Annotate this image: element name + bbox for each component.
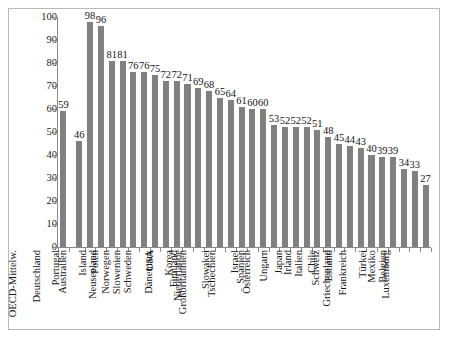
bar[interactable] xyxy=(152,75,158,248)
bar[interactable] xyxy=(249,109,255,247)
bar[interactable] xyxy=(423,185,429,247)
bar[interactable] xyxy=(260,109,266,247)
bar-value-label: 44 xyxy=(345,134,356,145)
bar[interactable] xyxy=(282,127,288,247)
bar-slot[interactable]: 34 xyxy=(399,17,410,247)
bar[interactable] xyxy=(206,91,212,247)
bar[interactable] xyxy=(239,107,245,247)
bar-slot[interactable]: 69 xyxy=(193,17,204,247)
bar[interactable] xyxy=(195,88,201,247)
bar[interactable] xyxy=(293,127,299,247)
bar[interactable] xyxy=(358,148,364,247)
x-axis-category-label-text: Dänemark xyxy=(144,250,155,294)
bar-slot[interactable]: 72 xyxy=(171,17,182,247)
bar[interactable] xyxy=(379,157,385,247)
bar-value-label: 48 xyxy=(323,125,334,136)
bar-slot[interactable]: 43 xyxy=(355,17,366,247)
bar-value-label: 52 xyxy=(301,115,312,126)
plot-region: 1009080706050403020100 59469896818176767… xyxy=(31,17,431,247)
bar-slot[interactable]: 48 xyxy=(323,17,334,247)
bar-slot[interactable]: 81 xyxy=(117,17,128,247)
x-axis-category-label-text: Frankreich xyxy=(338,250,349,295)
bar-slot[interactable]: 76 xyxy=(128,17,139,247)
bar[interactable] xyxy=(368,155,374,247)
bar-slot[interactable]: 46 xyxy=(74,17,85,247)
bar-slot[interactable]: 33 xyxy=(409,17,420,247)
bar[interactable] xyxy=(271,125,277,247)
bar-slot[interactable]: 39 xyxy=(388,17,399,247)
bars-area: 5946989681817676757272716968656461606053… xyxy=(58,17,431,247)
bar-value-label: 43 xyxy=(355,136,366,147)
bar-value-label: 71 xyxy=(182,72,193,83)
bar-value-label: 81 xyxy=(106,49,117,60)
bar-slot[interactable]: 60 xyxy=(247,17,258,247)
bar[interactable] xyxy=(228,100,234,247)
bar-slot[interactable]: 53 xyxy=(269,17,280,247)
bar[interactable] xyxy=(130,72,136,247)
bar[interactable] xyxy=(303,127,309,247)
bar[interactable] xyxy=(314,130,320,247)
bar[interactable] xyxy=(336,144,342,248)
bar[interactable] xyxy=(184,84,190,247)
bar-value-label: 98 xyxy=(85,10,96,21)
bar[interactable] xyxy=(347,146,353,247)
bar[interactable] xyxy=(98,26,104,247)
bar-slot[interactable]: 51 xyxy=(312,17,323,247)
bar-slot[interactable]: 76 xyxy=(139,17,150,247)
bar[interactable] xyxy=(174,81,180,247)
bar[interactable] xyxy=(412,171,418,247)
bar[interactable] xyxy=(390,157,396,247)
x-axis-category-label-text: Italien xyxy=(293,250,304,277)
bar-slot[interactable]: 45 xyxy=(334,17,345,247)
bar-slot[interactable]: 52 xyxy=(290,17,301,247)
bar[interactable] xyxy=(119,61,125,247)
bar-slot[interactable]: 40 xyxy=(366,17,377,247)
bar-slot[interactable]: 98 xyxy=(85,17,96,247)
bar[interactable] xyxy=(401,169,407,247)
bar-slot[interactable]: 60 xyxy=(258,17,269,247)
bar-value-label: 51 xyxy=(312,118,323,129)
bar[interactable] xyxy=(109,61,115,247)
bar[interactable] xyxy=(163,81,169,247)
x-axis-category-label-text: Australien xyxy=(57,250,68,294)
x-axis-tick-mark xyxy=(420,248,421,252)
bar-value-label: 76 xyxy=(128,60,139,71)
bar-value-label: 68 xyxy=(204,79,215,90)
chart-figure: 1009080706050403020100 59469896818176767… xyxy=(8,8,440,330)
bar[interactable] xyxy=(325,137,331,247)
bar-slot[interactable]: 27 xyxy=(420,17,431,247)
x-axis-category-label-text: Norwegen xyxy=(100,250,111,294)
bar[interactable] xyxy=(217,98,223,248)
bar-value-label: 39 xyxy=(388,145,399,156)
bar-slot[interactable]: 75 xyxy=(150,17,161,247)
bar-value-label: 52 xyxy=(280,115,291,126)
bar-value-label: 64 xyxy=(226,88,237,99)
bar-value-label: 34 xyxy=(399,157,410,168)
bar-slot[interactable]: 65 xyxy=(215,17,226,247)
bar-slot[interactable]: 72 xyxy=(160,17,171,247)
bar-value-label: 27 xyxy=(420,173,431,184)
bar-value-label: 39 xyxy=(377,145,388,156)
x-axis-category-label-text: Schweden xyxy=(122,250,133,293)
bar-slot[interactable]: 39 xyxy=(377,17,388,247)
bar[interactable] xyxy=(141,72,147,247)
bar-slot[interactable]: 61 xyxy=(236,17,247,247)
bar-slot[interactable]: 96 xyxy=(95,17,106,247)
bar-value-label: 69 xyxy=(193,76,204,87)
bar-slot[interactable]: 44 xyxy=(344,17,355,247)
bar-slot[interactable]: 68 xyxy=(204,17,215,247)
bar-slot[interactable]: 52 xyxy=(279,17,290,247)
bar-value-label: 76 xyxy=(139,60,150,71)
bar-slot[interactable]: 59 xyxy=(58,17,69,247)
bar[interactable] xyxy=(76,141,82,247)
bar-slot[interactable]: 81 xyxy=(106,17,117,247)
bar-slot[interactable]: 52 xyxy=(301,17,312,247)
bar[interactable] xyxy=(60,111,66,247)
bar-slot[interactable]: 71 xyxy=(182,17,193,247)
bar[interactable] xyxy=(87,22,93,247)
bar-value-label: 65 xyxy=(215,86,226,97)
bar-value-label: 81 xyxy=(117,49,128,60)
x-axis-category-label: Luxemburg xyxy=(398,250,409,346)
bar-slot[interactable]: 64 xyxy=(225,17,236,247)
x-axis-category-label-text: Luxemburg xyxy=(379,250,390,299)
